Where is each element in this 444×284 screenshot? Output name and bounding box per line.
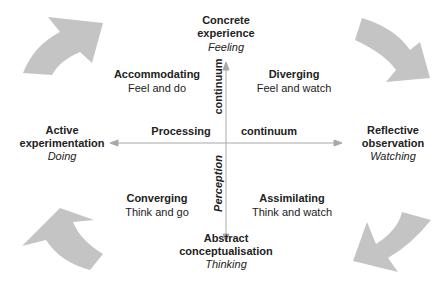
pole-top-line2: experience <box>176 27 276 40</box>
pole-top-subtitle: Feeling <box>186 41 266 54</box>
pole-left-line2: experimentation <box>2 137 122 150</box>
pole-right-line1: Reflective <box>343 124 443 137</box>
cycle-arrow-top-right-icon <box>355 18 430 82</box>
pole-bottom-subtitle: Thinking <box>186 258 266 271</box>
arrowhead-right-icon <box>334 140 342 146</box>
pole-top-line1: Concrete <box>186 14 266 27</box>
pole-left-subtitle: Doing <box>12 150 112 163</box>
quadrant-converging-title: Converging <box>107 192 207 205</box>
quadrant-accommodating-title: Accommodating <box>107 68 207 81</box>
axis-label-continuum-vertical: continuum <box>212 52 225 122</box>
cycle-arrow-top-left-icon <box>23 17 103 75</box>
axis-label-processing: Processing <box>146 125 216 138</box>
axis-label-continuum-horizontal: continuum <box>234 125 304 138</box>
pole-right-subtitle: Watching <box>343 150 443 163</box>
quadrant-converging-desc: Think and go <box>107 206 207 219</box>
quadrant-accommodating-desc: Feel and do <box>107 82 207 95</box>
quadrant-assimilating-desc: Think and watch <box>242 206 342 219</box>
pole-bottom-line1: Abstract <box>186 232 266 245</box>
quadrant-diverging-desc: Feel and watch <box>244 82 344 95</box>
quadrant-assimilating-title: Assimilating <box>242 192 342 205</box>
axis-label-perception: Perception <box>212 149 225 219</box>
pole-right-line2: observation <box>343 137 443 150</box>
cycle-arrow-bottom-right-icon <box>353 212 431 272</box>
cycle-arrow-bottom-left-icon <box>22 208 103 270</box>
pole-bottom-line2: conceptualisation <box>166 245 286 258</box>
quadrant-diverging-title: Diverging <box>244 68 344 81</box>
pole-left-line1: Active <box>12 124 112 137</box>
